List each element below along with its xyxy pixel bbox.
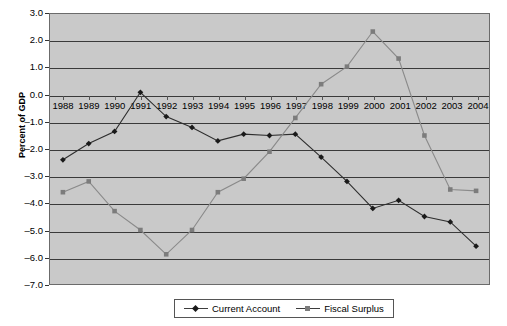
data-point-marker: [448, 187, 453, 192]
y-axis-tick-label: 2.0: [0, 35, 43, 45]
legend-item-fiscal-surplus: Fiscal Surplus: [296, 303, 384, 314]
data-point-marker: [474, 189, 479, 194]
data-point-marker: [61, 190, 66, 195]
data-point-marker: [112, 209, 117, 214]
series-line-current-account: [63, 92, 476, 246]
data-point-marker: [189, 125, 195, 131]
y-axis-tick-label: –7.0: [0, 280, 43, 290]
data-point-marker: [190, 228, 195, 233]
plot-area: 1988198919901991199219931994199519961997…: [49, 13, 490, 285]
y-axis-tick-label: 1.0: [0, 62, 43, 72]
legend-label: Fiscal Surplus: [324, 303, 384, 314]
data-point-marker: [112, 129, 118, 135]
y-axis-tick-label: 3.0: [0, 8, 43, 18]
y-axis-tick-label: –3.0: [0, 171, 43, 181]
data-point-marker: [267, 149, 272, 154]
y-axis-tick-label: –6.0: [0, 253, 43, 263]
y-axis-tick-label: –5.0: [0, 226, 43, 236]
data-point-marker: [138, 228, 143, 233]
y-axis-tick-label: –4.0: [0, 198, 43, 208]
data-point-marker: [422, 214, 428, 220]
data-point-marker: [319, 82, 324, 87]
data-point-marker: [396, 197, 402, 203]
chart-container: Percent of GDP 3.02.01.00.0–1.0–2.0–3.0–…: [0, 0, 507, 326]
data-point-marker: [86, 141, 92, 147]
data-point-marker: [422, 133, 427, 138]
legend: Current Account Fiscal Surplus: [174, 299, 394, 318]
y-axis-tick-label: –1.0: [0, 117, 43, 127]
data-point-marker: [293, 116, 298, 121]
series-line-fiscal-surplus: [63, 32, 476, 255]
data-point-marker: [241, 176, 246, 181]
data-point-marker: [60, 157, 66, 163]
data-point-marker: [345, 64, 350, 69]
y-axis-tick-mark: [45, 285, 49, 286]
series-layer: [50, 14, 489, 284]
data-point-marker: [164, 252, 169, 257]
data-point-marker: [86, 179, 91, 184]
y-axis-tick-label: 0.0: [0, 90, 43, 100]
data-point-marker: [215, 138, 221, 144]
line-diamond-marker-icon: [184, 304, 208, 314]
line-square-marker-icon: [296, 304, 320, 314]
data-point-marker: [241, 131, 247, 137]
y-axis-tick-label: –2.0: [0, 144, 43, 154]
data-point-marker: [396, 56, 401, 61]
data-point-marker: [216, 190, 221, 195]
legend-item-current-account: Current Account: [184, 303, 280, 314]
data-point-marker: [267, 133, 273, 139]
legend-label: Current Account: [212, 303, 280, 314]
data-point-marker: [371, 29, 376, 34]
